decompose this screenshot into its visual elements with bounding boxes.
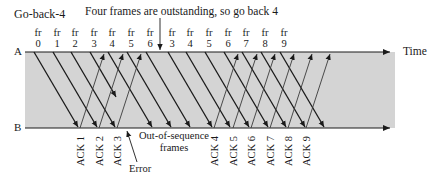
frame-label: fr8 <box>257 27 273 49</box>
station-b-label: B <box>14 122 21 133</box>
ack-label: ACK 3 <box>112 136 123 166</box>
frame-label: fr5 <box>201 27 217 49</box>
frame-label: fr4 <box>182 27 198 49</box>
frame-label: fr6 <box>142 27 158 49</box>
time-axis-label: Time <box>403 46 427 57</box>
ack-label: ACK 6 <box>246 136 257 166</box>
frame-label: fr5 <box>123 27 139 49</box>
ack-label: ACK 2 <box>94 136 105 166</box>
ack-label: ACK 5 <box>228 136 239 166</box>
ack-label: ACK 8 <box>283 136 294 166</box>
frame-label: fr0 <box>30 27 46 49</box>
frame-label: fr3 <box>164 27 180 49</box>
station-a-label: A <box>14 46 22 57</box>
channel-band <box>25 52 395 128</box>
frame-label: fr7 <box>238 27 254 49</box>
ack-label: ACK 1 <box>75 136 86 166</box>
error-label: Error <box>129 163 151 174</box>
go-back-n-diagram: Go-back-4 Four frames are outstanding, s… <box>0 0 437 185</box>
ack-label: ACK 9 <box>301 136 312 166</box>
ack-label: ACK 7 <box>265 136 276 166</box>
frame-label: fr1 <box>49 27 65 49</box>
frame-label: fr9 <box>276 27 292 49</box>
frame-label: fr6 <box>220 27 236 49</box>
out-of-sequence-label: Out-of-sequence frames <box>134 130 214 154</box>
frame-label: fr2 <box>67 27 83 49</box>
frame-label: fr3 <box>86 27 102 49</box>
frame-label: fr4 <box>104 27 120 49</box>
